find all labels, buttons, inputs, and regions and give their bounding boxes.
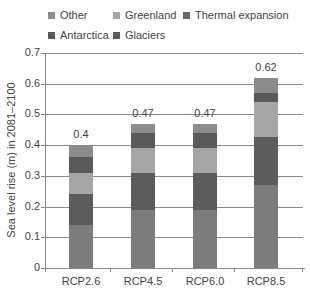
bar-segment-thermal-expansion (131, 210, 155, 268)
legend-label: Greenland (125, 9, 176, 21)
bar-segment-glaciers (254, 137, 278, 185)
legend-swatch (48, 32, 55, 39)
y-tick-label: 0.5 (25, 107, 40, 119)
bar-segment-antarctica (254, 93, 278, 102)
x-tick (302, 268, 303, 272)
bar-segment-thermal-expansion (193, 210, 217, 268)
bar-segment-greenland (254, 102, 278, 137)
bar-segment-other (193, 124, 217, 133)
x-tick-label: RCP6.0 (175, 275, 235, 287)
bar-segment-greenland (131, 148, 155, 173)
bar-total-label: 0.62 (246, 61, 286, 73)
x-tick-label: RCP4.5 (113, 275, 173, 287)
bar-segment-greenland (69, 173, 93, 195)
bar-segment-other (69, 145, 93, 157)
legend-item-other: Other (48, 9, 88, 21)
x-tick (234, 268, 235, 272)
gridline (45, 53, 303, 54)
legend-label: Antarctica (60, 29, 109, 41)
bar-segment-antarctica (131, 133, 155, 148)
y-tick-label: 0 (34, 261, 40, 273)
x-tick (45, 268, 46, 272)
bar-segment-antarctica (193, 133, 217, 148)
x-axis (45, 268, 305, 269)
legend-swatch (113, 12, 120, 19)
x-tick-label: RCP8.5 (236, 275, 296, 287)
bar-segment-glaciers (193, 173, 217, 210)
legend-label: Thermal expansion (195, 9, 289, 21)
y-tick-label: 0.4 (25, 138, 40, 150)
legend-swatch (183, 12, 190, 19)
bar-total-label: 0.47 (123, 107, 163, 119)
legend-item-glaciers: Glaciers (113, 29, 165, 41)
legend-label: Other (60, 9, 88, 21)
bar-segment-greenland (193, 148, 217, 173)
legend-item-thermal-expansion: Thermal expansion (183, 9, 289, 21)
legend-item-antarctica: Antarctica (48, 29, 109, 41)
y-axis (45, 53, 46, 269)
stacked-bar (254, 78, 278, 268)
y-tick-label: 0.6 (25, 77, 40, 89)
stacked-bar (69, 145, 93, 268)
bar-segment-other (254, 78, 278, 93)
y-tick-label: 0.2 (25, 200, 40, 212)
bar-segment-thermal-expansion (254, 185, 278, 268)
y-tick-label: 0.1 (25, 230, 40, 242)
bar-total-label: 0.4 (61, 128, 101, 140)
legend-swatch (113, 32, 120, 39)
y-tick-label: 0.3 (25, 169, 40, 181)
bar-segment-glaciers (69, 194, 93, 225)
bar-total-label: 0.47 (185, 107, 225, 119)
y-axis-label: Sea level rise (m) in 2081–2100 (5, 60, 17, 260)
bar-segment-thermal-expansion (69, 225, 93, 268)
legend-item-greenland: Greenland (113, 9, 176, 21)
bar-segment-other (131, 124, 155, 133)
x-tick (172, 268, 173, 272)
bar-segment-glaciers (131, 173, 155, 210)
legend-label: Glaciers (125, 29, 165, 41)
stacked-bar (131, 124, 155, 268)
y-tick-label: 0.7 (25, 46, 40, 58)
stacked-bar (193, 124, 217, 268)
legend-swatch (48, 12, 55, 19)
x-tick-label: RCP2.6 (51, 275, 111, 287)
x-tick (110, 268, 111, 272)
bar-segment-antarctica (69, 157, 93, 172)
